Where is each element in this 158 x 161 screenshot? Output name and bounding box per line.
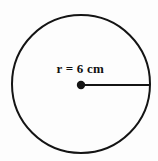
radius-label: r = 6 cm [0, 61, 104, 76]
circle-diagram-canvas: r = 6 cm [0, 0, 158, 161]
center-dot [77, 81, 85, 89]
geometry-svg [0, 0, 158, 161]
